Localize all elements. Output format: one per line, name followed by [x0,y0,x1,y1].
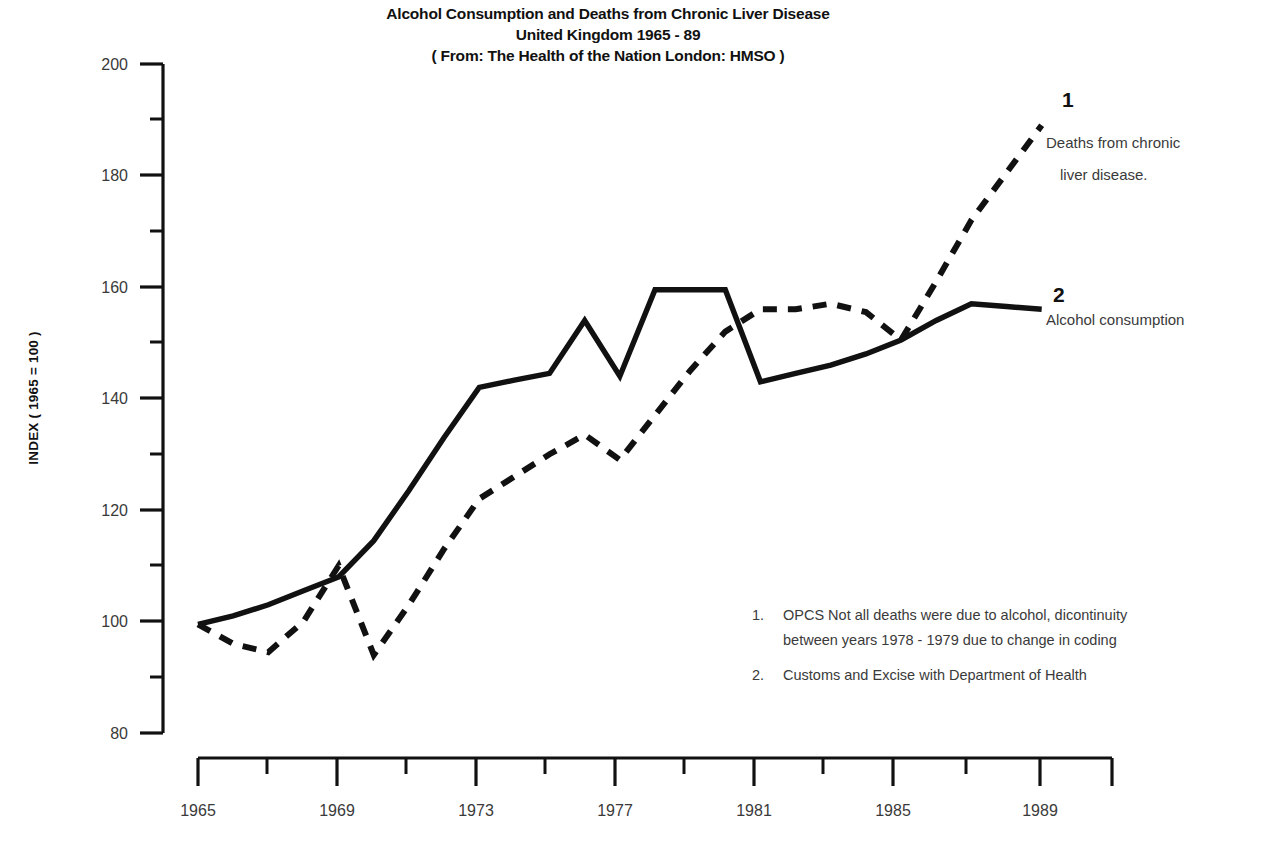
chart-footnotes: 1. OPCS Not all deaths were due to alcoh… [752,607,1128,683]
chart-title-line-3: ( From: The Health of the Nation London:… [431,47,784,64]
chart-figure: Alcohol Consumption and Deaths from Chro… [0,0,1276,860]
series-1-label-line-2: liver disease. [1060,166,1148,183]
footnote-2-line-1: Customs and Excise with Department of He… [783,667,1087,683]
y-tick-label-200: 200 [101,56,128,73]
x-tick-label-1977: 1977 [597,802,633,819]
x-tick-label-1989: 1989 [1022,802,1058,819]
chart-title-line-1: Alcohol Consumption and Deaths from Chro… [386,5,830,22]
y-axis-title: INDEX ( 1965 = 100 ) [26,331,41,464]
series-line-deaths-chronic-liver-disease [198,125,1042,655]
x-tick-label-1965: 1965 [180,802,216,819]
series-1-label-line-1: Deaths from chronic [1046,134,1181,151]
footnote-1-line-2: between years 1978 - 1979 due to change … [783,632,1117,648]
series-callout-deaths: 1 Deaths from chronic liver disease. [1046,88,1181,183]
x-tick-label-1981: 1981 [736,802,772,819]
y-tick-label-160: 160 [101,279,128,296]
footnote-1-number: 1. [752,607,764,623]
chart-title: Alcohol Consumption and Deaths from Chro… [386,5,830,64]
y-tick-label-140: 140 [101,390,128,407]
footnote-2-number: 2. [752,667,764,683]
y-tick-label-80: 80 [110,725,128,742]
series-2-number: 2 [1053,283,1065,306]
y-axis-major-ticks [140,64,163,733]
x-axis-tick-labels: 1965 1969 1973 1977 1981 1985 1989 [180,802,1058,819]
chart-title-line-2: United Kingdom 1965 - 89 [516,26,701,43]
footnote-1-line-1: OPCS Not all deaths were due to alcohol,… [783,607,1128,623]
series-callout-alcohol: 2 Alcohol consumption [1046,283,1184,328]
series-2-label-line-1: Alcohol consumption [1046,311,1184,328]
x-axis-major-ticks [198,758,1112,786]
series-1-number: 1 [1062,88,1074,111]
x-tick-label-1973: 1973 [458,802,494,819]
y-tick-label-120: 120 [101,502,128,519]
x-tick-label-1969: 1969 [319,802,355,819]
y-tick-label-100: 100 [101,613,128,630]
y-axis-tick-labels: 200 180 160 140 120 100 80 [101,56,128,742]
plot-area [198,125,1042,655]
x-axis: 1965 1969 1973 1977 1981 1985 1989 [180,758,1112,819]
y-tick-label-180: 180 [101,167,128,184]
y-axis: 200 180 160 140 120 100 80 INDEX ( 1965 … [26,56,163,742]
x-tick-label-1985: 1985 [875,802,911,819]
chart-svg: Alcohol Consumption and Deaths from Chro… [0,0,1276,860]
